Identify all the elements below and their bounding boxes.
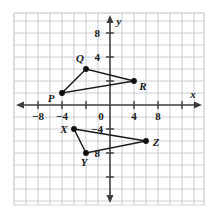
coordinate-plane-figure: P Q R X Y Z −8 −4 0 4 8 8 4 −4 8 x y (0, 0, 214, 216)
vertex-point-z (143, 138, 149, 144)
x-tick-label-pos8: 8 (155, 110, 161, 122)
y-tick-label-neg8: 8 (95, 147, 101, 159)
x-tick-label-zero: 0 (98, 110, 104, 122)
vertex-label-r: R (138, 80, 146, 92)
vertex-label-z: Z (152, 136, 160, 148)
y-tick-label-pos4: 4 (95, 51, 101, 63)
vertex-label-x: X (59, 123, 68, 135)
plot-background (14, 13, 204, 205)
vertex-point-p (59, 90, 65, 96)
y-tick-label-neg4: −4 (91, 123, 103, 135)
y-tick-label-pos8: 8 (95, 27, 101, 39)
vertex-label-q: Q (76, 52, 84, 64)
coordinate-plane-svg: P Q R X Y Z −8 −4 0 4 8 8 4 −4 8 x y (0, 0, 214, 216)
x-axis-label: x (189, 88, 196, 100)
vertex-label-p: P (48, 92, 55, 104)
y-axis-label: y (115, 15, 122, 27)
vertex-point-q (83, 66, 89, 72)
x-tick-label-pos4: 4 (131, 110, 137, 122)
x-tick-label-neg4: −4 (56, 110, 68, 122)
x-tick-label-neg8: −8 (32, 110, 44, 122)
vertex-point-x (71, 126, 77, 132)
vertex-point-r (131, 78, 137, 84)
